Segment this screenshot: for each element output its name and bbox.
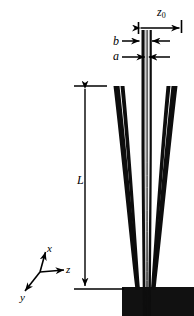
label-z0-symbol: z <box>157 5 162 19</box>
dimension-L <box>74 86 124 289</box>
fiber-central-left <box>142 30 146 316</box>
label-a: a <box>113 50 119 62</box>
fiber-bundle-figure: z0 b a L x y z <box>0 0 194 316</box>
dimension-z0 <box>139 20 182 34</box>
figure-canvas <box>0 0 194 316</box>
axis-label-z: z <box>66 264 70 275</box>
axis-label-y: y <box>20 292 25 303</box>
clamp-block <box>122 287 194 316</box>
axis-z-line <box>40 270 64 272</box>
fiber-bundle <box>114 30 178 316</box>
label-z0: z0 <box>157 6 166 18</box>
axis-x-line <box>40 252 46 272</box>
label-z0-subscript: 0 <box>162 11 166 20</box>
label-L: L <box>77 174 84 186</box>
label-b: b <box>113 35 119 47</box>
fiber-inner-left <box>121 86 141 290</box>
coordinate-triad <box>25 252 64 291</box>
axis-label-x: x <box>47 243 52 254</box>
fiber-central-right <box>148 30 152 316</box>
axis-y-line <box>25 272 40 291</box>
fiber-inner-right <box>151 86 171 290</box>
